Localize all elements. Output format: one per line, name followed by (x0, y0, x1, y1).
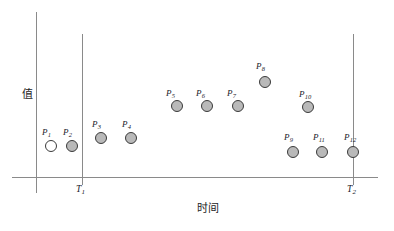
boundary-line-t2 (353, 34, 354, 185)
data-point-label-p2: P2 (63, 128, 72, 137)
boundary-label-t2: T2 (347, 185, 356, 195)
data-point-p6[interactable] (201, 100, 213, 112)
data-point-label-p9: P9 (284, 133, 293, 142)
data-point-p3[interactable] (95, 132, 107, 144)
data-point-p1[interactable] (45, 140, 57, 152)
x-axis-line (12, 177, 378, 178)
data-point-label-p11: P11 (313, 133, 325, 142)
x-axis-title: 时间 (197, 203, 219, 214)
data-point-label-p10: P10 (299, 90, 311, 99)
data-point-p11[interactable] (316, 146, 328, 158)
data-point-p5[interactable] (171, 100, 183, 112)
data-point-label-p4: P4 (122, 120, 131, 129)
data-point-p12[interactable] (347, 146, 359, 158)
data-point-p10[interactable] (302, 101, 314, 113)
y-axis-line (36, 12, 37, 193)
data-point-label-p1: P1 (42, 128, 51, 137)
data-point-p2[interactable] (66, 140, 78, 152)
y-axis-title: 值 (21, 88, 32, 99)
data-point-label-p5: P5 (166, 89, 175, 98)
data-point-label-p3: P3 (92, 120, 101, 129)
data-point-label-p7: P7 (227, 89, 236, 98)
data-point-label-p12: P12 (344, 133, 356, 142)
data-point-p7[interactable] (232, 100, 244, 112)
data-point-label-p6: P6 (196, 89, 205, 98)
scatter-chart-figure: T1T2 P1P2P3P4P5P6P7P8P9P10P11P12 值 时间 (0, 0, 394, 231)
boundary-label-t1: T1 (76, 185, 85, 195)
data-point-p9[interactable] (287, 146, 299, 158)
data-point-p4[interactable] (125, 132, 137, 144)
data-point-label-p8: P8 (256, 62, 265, 71)
boundary-line-t1 (82, 34, 83, 185)
data-point-p8[interactable] (259, 76, 271, 88)
